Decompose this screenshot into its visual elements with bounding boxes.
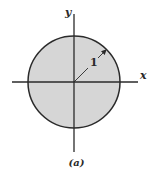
- y-axis-label: y: [65, 7, 71, 18]
- x-axis-label: x: [140, 70, 147, 81]
- unit-disk-figure: y x 1 (a): [0, 0, 153, 184]
- figure-caption: (a): [0, 157, 153, 168]
- radius-label: 1: [90, 57, 98, 68]
